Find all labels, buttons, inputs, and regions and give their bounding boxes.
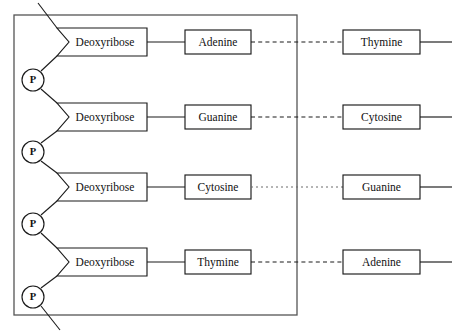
nucleotide-row: Deoxyribose Guanine Cytosine — [57, 103, 452, 131]
backbone-seg-3a — [41, 201, 57, 215]
right-base-label: Adenine — [362, 256, 401, 268]
backbone-seg-3b — [41, 233, 57, 248]
backbone-seg-2a — [41, 131, 57, 143]
phosphate-label: P — [30, 74, 37, 85]
left-base-label: Guanine — [199, 111, 238, 123]
outer-frame-rectangle — [14, 15, 297, 315]
left-base-label: Thymine — [197, 256, 239, 269]
phosphate-group[interactable]: P — [22, 286, 44, 308]
backbone-seg-4a — [41, 276, 57, 288]
backbone-seg-1b — [41, 89, 57, 103]
deoxyribose-label: Deoxyribose — [76, 181, 135, 194]
phosphate-label: P — [30, 218, 37, 229]
phosphate-label: P — [30, 291, 37, 302]
right-base-label: Cytosine — [361, 111, 402, 124]
nucleotide-row: Deoxyribose Adenine Thymine — [57, 28, 452, 56]
sugar-phosphate-backbone — [38, 3, 60, 330]
backbone-bottom-stub — [41, 306, 60, 330]
backbone-seg-1a — [41, 56, 57, 71]
right-base-label: Guanine — [362, 181, 401, 193]
dna-diagram-svg: Deoxyribose Adenine Thymine Deoxyribose … — [0, 0, 455, 333]
backbone-seg-2b — [41, 161, 57, 173]
phosphate-group[interactable]: P — [22, 141, 44, 163]
dna-base-pairing-diagram: Deoxyribose Adenine Thymine Deoxyribose … — [0, 0, 455, 333]
right-base-label: Thymine — [361, 36, 403, 49]
nucleotide-row: Deoxyribose Thymine Adenine — [57, 248, 452, 276]
deoxyribose-label: Deoxyribose — [76, 111, 135, 124]
left-base-label: Cytosine — [198, 181, 239, 194]
nucleotide-row: Deoxyribose Cytosine Guanine — [57, 173, 452, 201]
left-base-label: Adenine — [199, 36, 238, 48]
phosphate-group[interactable]: P — [22, 69, 44, 91]
phosphate-label: P — [30, 146, 37, 157]
deoxyribose-label: Deoxyribose — [76, 256, 135, 269]
phosphate-group[interactable]: P — [22, 213, 44, 235]
deoxyribose-label: Deoxyribose — [76, 36, 135, 49]
